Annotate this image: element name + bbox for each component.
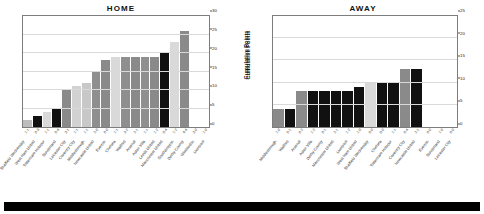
bar bbox=[354, 87, 366, 127]
match-score-label: 2-1 bbox=[133, 128, 139, 135]
match-score-label: 0-3 bbox=[34, 128, 40, 135]
bar bbox=[92, 72, 102, 128]
charts-container: HOME 051015202530 Cumulative Points 1-1S… bbox=[0, 0, 484, 180]
y-tick-label: 10 bbox=[212, 83, 217, 88]
team-name-label: Middlesbrough bbox=[258, 139, 278, 162]
bar bbox=[131, 57, 141, 127]
y-tick-label: 25 bbox=[212, 26, 217, 31]
x-axis-tick: 1-0Middlesbrough bbox=[272, 129, 284, 179]
x-axis-tick: 1-0Liverpool bbox=[200, 129, 210, 179]
grid-line bbox=[273, 104, 457, 105]
y-tick-label: 10 bbox=[460, 75, 465, 80]
bar bbox=[308, 91, 320, 127]
match-score-label: 0-1 bbox=[286, 128, 292, 135]
match-score-label: 1-2 bbox=[152, 128, 158, 135]
y-tick-label: 15 bbox=[212, 64, 217, 69]
x-axis-tick: 3-2Watford bbox=[121, 129, 131, 179]
match-score-label: 0-4 bbox=[53, 128, 59, 135]
match-score-label: 1-0 bbox=[202, 128, 208, 135]
y-axis-away: 0510152025 bbox=[458, 15, 478, 128]
grid-line bbox=[23, 52, 209, 53]
match-score-label: 2-0 bbox=[93, 128, 99, 135]
y-axis-home: 051015202530 bbox=[210, 15, 230, 128]
bar bbox=[180, 31, 190, 127]
y-tick-label: 5 bbox=[212, 102, 214, 107]
grid-line bbox=[23, 71, 209, 72]
grid-line bbox=[273, 37, 457, 38]
match-score-label: 1-1 bbox=[83, 128, 89, 135]
match-score-label: 2-1 bbox=[333, 128, 339, 135]
grid-line bbox=[273, 82, 457, 83]
match-score-label: 1-1 bbox=[44, 128, 50, 135]
match-score-label: 1-1 bbox=[73, 128, 79, 135]
y-tick-label: 0 bbox=[212, 121, 214, 126]
bar bbox=[285, 109, 297, 127]
x-axis-tick: 0-0Leicester City bbox=[446, 129, 458, 179]
match-score-label: 2-1 bbox=[414, 128, 420, 135]
bar-series-away bbox=[273, 16, 457, 127]
x-axis-labels-away: 1-0Middlesbrough0-1Watford0-2Arsenal1-2A… bbox=[272, 129, 458, 179]
bar bbox=[52, 109, 62, 127]
match-score-label: 1-0 bbox=[275, 128, 281, 135]
x-axis-tick: 2-1Manchester United bbox=[330, 129, 342, 179]
match-score-label: 0-0 bbox=[426, 128, 432, 135]
bar bbox=[111, 57, 121, 127]
bar bbox=[33, 116, 43, 127]
chart-title-home: HOME bbox=[0, 4, 242, 13]
plot-area-home bbox=[22, 15, 210, 128]
x-axis-labels-home: 1-1Sheffield Wednesday0-3West Ham United… bbox=[22, 129, 210, 179]
match-score-label: 0-0 bbox=[103, 128, 109, 135]
x-axis-tick: 0-0Everton bbox=[101, 129, 111, 179]
chart-panel-home: HOME 051015202530 Cumulative Points 1-1S… bbox=[0, 0, 242, 180]
match-score-label: 1-1 bbox=[391, 128, 397, 135]
x-axis-tick: 2-1Newcastle United bbox=[412, 129, 424, 179]
y-tick-label: 20 bbox=[212, 45, 217, 50]
bar bbox=[296, 91, 308, 127]
bar bbox=[342, 91, 354, 127]
y-tick-label: 30 bbox=[212, 8, 217, 13]
grid-line bbox=[23, 89, 209, 90]
match-score-label: 1-0 bbox=[356, 128, 362, 135]
chart-panel-away: AWAY 0510152025 Cumulative Points Cumula… bbox=[242, 0, 484, 180]
match-score-label: 0-0 bbox=[449, 128, 455, 135]
bar bbox=[319, 91, 331, 127]
bar bbox=[43, 112, 53, 127]
match-score-label: 3-1 bbox=[63, 128, 69, 135]
bar bbox=[23, 120, 33, 127]
bar bbox=[411, 69, 423, 127]
match-score-label: 0-4 bbox=[403, 128, 409, 135]
match-score-label: 0-4 bbox=[162, 128, 168, 135]
bar bbox=[141, 57, 151, 127]
match-score-label: 3-0 bbox=[192, 128, 198, 135]
y-tick-label: 15 bbox=[460, 53, 465, 58]
grid-line bbox=[23, 34, 209, 35]
plot-area-away bbox=[272, 15, 458, 128]
y-tick-label: 5 bbox=[460, 98, 462, 103]
bar bbox=[273, 109, 285, 127]
match-score-label: 0-1 bbox=[321, 128, 327, 135]
grid-line bbox=[23, 108, 209, 109]
match-score-label: 1-2 bbox=[172, 128, 178, 135]
match-score-label: 1-2 bbox=[344, 128, 350, 135]
bar bbox=[170, 42, 180, 127]
y-tick-label: 25 bbox=[460, 8, 465, 13]
match-score-label: 1-2 bbox=[310, 128, 316, 135]
match-score-label: 1-1 bbox=[142, 128, 148, 135]
y-tick-label: 0 bbox=[460, 121, 462, 126]
bar bbox=[331, 91, 343, 127]
figure-canvas: HOME 051015202530 Cumulative Points 1-1S… bbox=[0, 0, 484, 214]
y-axis-label-away-left: Cumulative Points bbox=[245, 31, 251, 80]
x-axis-tick: 1-1Chelsea bbox=[111, 129, 121, 179]
x-axis-tick: 0-0Sheffield Wednesday bbox=[365, 129, 377, 179]
match-score-label: 0-0 bbox=[379, 128, 385, 135]
match-score-label: 0-2 bbox=[298, 128, 304, 135]
bar bbox=[400, 69, 412, 127]
bar bbox=[150, 57, 160, 127]
chart-title-away: AWAY bbox=[242, 4, 484, 13]
match-score-label: 4-4 bbox=[182, 128, 188, 135]
y-tick-label: 20 bbox=[460, 30, 465, 35]
footer-black-bar bbox=[4, 202, 480, 211]
match-score-label: 1-1 bbox=[113, 128, 119, 135]
match-score-label: 1-1 bbox=[24, 128, 30, 135]
bar bbox=[121, 57, 131, 127]
